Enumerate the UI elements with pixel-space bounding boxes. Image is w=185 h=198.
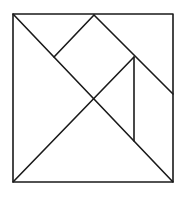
half-diagonal-line <box>13 57 134 182</box>
tangram-segments <box>13 14 173 182</box>
top-to-square-left-line <box>54 15 94 57</box>
tangram-diagram <box>0 0 185 198</box>
